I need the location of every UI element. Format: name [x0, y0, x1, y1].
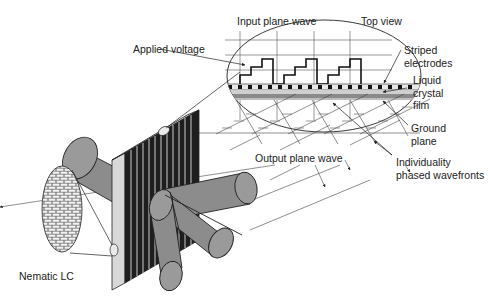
phased-wavefronts-label: Individuality phased wavefronts — [396, 156, 484, 181]
ground-plane-arrow — [383, 101, 408, 125]
output-plane-wave-label: Output plane wave — [255, 152, 343, 165]
staircase-voltage-profile — [240, 59, 361, 84]
input-plane-wave-label: Input plane wave — [237, 15, 316, 28]
inset-ellipse — [227, 20, 421, 132]
lc-phased-array-diagram: Input plane wave Top view Applied voltag… — [0, 0, 501, 303]
top-view-label: Top view — [361, 15, 402, 28]
striped-electrodes-layer — [226, 84, 422, 90]
applied-voltage-label: Applied voltage — [133, 43, 205, 56]
liquid-crystal-film-label: Liquid crystal film — [413, 74, 443, 112]
wavefront-arrow-1 — [333, 103, 392, 155]
wavefront-arrow-2 — [374, 141, 392, 155]
striped-electrodes-label: Striped electrodes — [404, 44, 452, 69]
nematic-lc-marker — [110, 244, 118, 256]
nematic-lc-label: Nematic LC — [19, 270, 74, 283]
phased-wavefronts — [168, 94, 430, 144]
ground-plane-layer — [226, 94, 422, 98]
ground-plane-label: Ground plane — [411, 122, 446, 147]
